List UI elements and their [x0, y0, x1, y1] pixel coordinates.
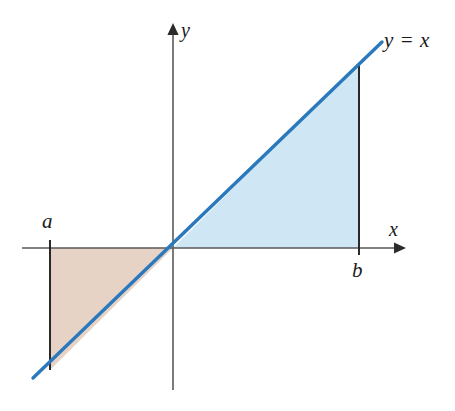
upper-bound-label-b: b [352, 260, 363, 281]
x-axis-label: x [389, 219, 398, 239]
line-equation-label: y = x [384, 30, 430, 51]
y-axis-label: y [181, 20, 190, 40]
coordinate-plane-svg [0, 0, 455, 411]
y-axis [167, 23, 178, 390]
geometry-figure: y x a b y = x [0, 0, 455, 411]
lower-bound-label-a: a [42, 211, 53, 232]
negative-area-region [50, 248, 173, 370]
